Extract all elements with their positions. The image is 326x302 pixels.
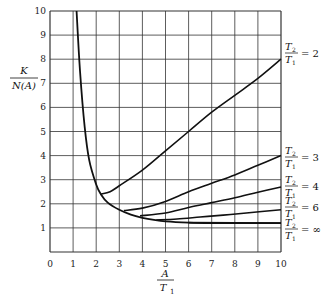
x-tick-label: 6 bbox=[186, 259, 192, 269]
svg-text:= 3: = 3 bbox=[301, 152, 319, 163]
y-tick-label: 8 bbox=[40, 54, 46, 64]
svg-text:2: 2 bbox=[292, 46, 296, 53]
x-tick-label: 8 bbox=[232, 259, 238, 269]
svg-text:A: A bbox=[160, 268, 168, 279]
x-tick-label: 10 bbox=[275, 259, 287, 269]
y-tick-label: 3 bbox=[40, 175, 46, 185]
svg-text:2: 2 bbox=[292, 222, 296, 229]
axis-ticks: 01234567891012345678910 bbox=[35, 6, 287, 269]
x-tick-label: 7 bbox=[209, 259, 215, 269]
curve-series-0 bbox=[101, 59, 281, 194]
y-axis-label: K N(A) bbox=[10, 65, 38, 91]
y-tick-label: 10 bbox=[35, 6, 47, 16]
y-tick-label: 2 bbox=[40, 199, 46, 209]
x-tick-label: 4 bbox=[140, 259, 146, 269]
svg-text:2: 2 bbox=[292, 179, 296, 186]
svg-text:1: 1 bbox=[170, 288, 174, 296]
y-tick-label: 5 bbox=[40, 127, 46, 137]
svg-text:= 4: = 4 bbox=[301, 181, 319, 192]
x-tick-label: 1 bbox=[70, 259, 76, 269]
legend-t2t1-inf: T2 T1 = ∞ bbox=[285, 217, 321, 242]
svg-text:2: 2 bbox=[292, 200, 296, 207]
svg-text:1: 1 bbox=[292, 59, 296, 66]
svg-text:K: K bbox=[19, 65, 28, 76]
x-tick-label: 3 bbox=[116, 259, 122, 269]
y-tick-label: 6 bbox=[40, 102, 46, 112]
svg-text:= ∞: = ∞ bbox=[301, 224, 321, 235]
svg-text:1: 1 bbox=[292, 235, 296, 242]
chart: 01234567891012345678910 K N(A) A T 1 T2 … bbox=[0, 0, 326, 302]
svg-text:N(A): N(A) bbox=[11, 80, 36, 91]
svg-text:= 2: = 2 bbox=[301, 48, 319, 59]
y-tick-label: 9 bbox=[40, 30, 46, 40]
x-tick-label: 9 bbox=[255, 259, 261, 269]
x-tick-label: 2 bbox=[93, 259, 99, 269]
legend-t2t1-3: T2 T1 = 3 bbox=[285, 145, 319, 170]
y-tick-label: 4 bbox=[40, 151, 46, 161]
y-tick-label: 7 bbox=[40, 78, 46, 88]
svg-text:1: 1 bbox=[292, 192, 296, 199]
x-tick-label: 0 bbox=[47, 259, 53, 269]
svg-text:1: 1 bbox=[292, 213, 296, 220]
legend-t2t1-2: T2 T1 = 2 bbox=[285, 41, 319, 66]
svg-text:T: T bbox=[160, 282, 168, 293]
svg-text:= 6: = 6 bbox=[301, 202, 319, 213]
x-axis-label: A T 1 bbox=[157, 268, 174, 296]
curve-envelope bbox=[77, 11, 281, 223]
curves bbox=[77, 11, 281, 223]
svg-text:2: 2 bbox=[292, 150, 296, 157]
y-tick-label: 1 bbox=[40, 223, 46, 233]
curve-series-1 bbox=[124, 156, 281, 211]
svg-text:1: 1 bbox=[292, 163, 296, 170]
